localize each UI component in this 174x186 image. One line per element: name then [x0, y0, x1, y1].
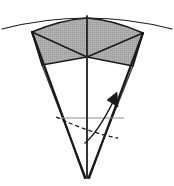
solid-angle-cone-diagram — [0, 0, 174, 186]
figure-canvas — [0, 0, 174, 186]
